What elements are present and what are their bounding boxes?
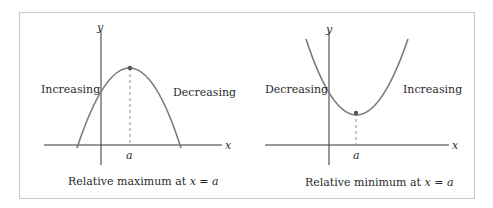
decreasing-label: Decreasing [265,83,328,96]
x-axis-label: x [225,139,232,152]
y-axis-label: y [96,21,104,34]
max-point [128,66,132,70]
increasing-label: Increasing [403,83,462,96]
caption-max: Relative maximum at x = a [68,175,219,188]
decreasing-label: Decreasing [173,86,236,99]
tick-label-a: a [126,149,133,162]
caption-min: Relative minimum at x = a [305,176,453,189]
y-axis-label: y [325,23,333,36]
min-curve [306,39,408,115]
min-point [354,111,358,115]
max-curve [77,68,181,148]
x-axis-label: x [452,139,459,152]
tick-label-a: a [353,149,360,162]
panel-relative-minimum: y x a Decreasing Increasing Relative min… [265,23,462,189]
panel-relative-maximum: y x a Increasing Decreasing Relative max… [41,21,236,188]
increasing-label: Increasing [41,83,100,96]
diagram-canvas: y x a Increasing Decreasing Relative max… [0,0,493,208]
